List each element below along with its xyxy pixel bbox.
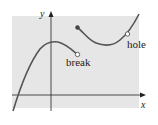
hole-open-circle-icon [125,32,129,36]
hole-label: hole [127,38,146,50]
jump-filled-dot-icon [75,25,79,29]
x-axis-arrow-icon [140,93,146,98]
x-axis-label: x [140,99,146,110]
y-axis-arrow-icon [49,11,54,17]
y-axis-label: y [39,8,45,19]
discontinuity-diagram: x y break hole [0,0,158,125]
break-label: break [66,56,91,68]
